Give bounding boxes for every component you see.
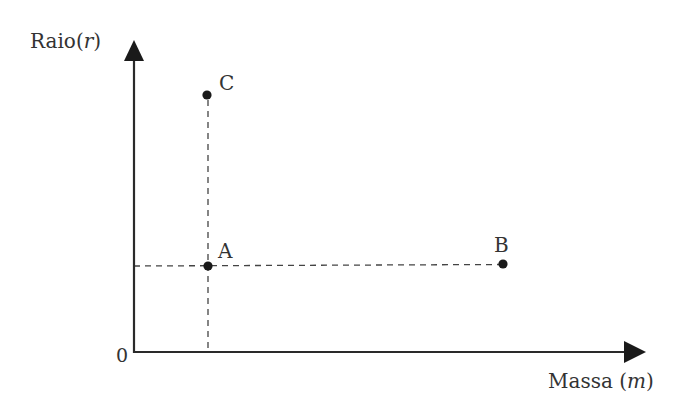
y-axis-arrow-icon: [124, 40, 144, 61]
origin-label: 0: [116, 344, 128, 366]
point-b-label: B: [494, 233, 509, 257]
point-c: [202, 90, 211, 99]
x-axis-label: Massa (m): [548, 369, 654, 393]
point-c-label: C: [219, 71, 234, 95]
point-a-label: A: [217, 239, 233, 263]
horizontal-guide-line: [134, 265, 500, 267]
point-a: [203, 261, 212, 270]
x-axis-arrow-icon: [624, 341, 646, 363]
mass-radius-diagram: Raio(r) Massa (m) 0 C A B: [0, 0, 700, 411]
y-axis-label: Raio(r): [30, 29, 101, 53]
point-b: [498, 259, 507, 268]
